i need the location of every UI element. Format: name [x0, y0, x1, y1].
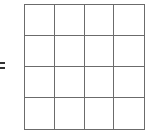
grid-cell [114, 67, 144, 98]
grid-cell [114, 5, 144, 36]
grid-cell [25, 5, 55, 36]
grid-cell [85, 98, 115, 129]
grid-cell [25, 67, 55, 98]
grid-cell [25, 98, 55, 129]
grid-cell [55, 67, 85, 98]
grid-cell [85, 5, 115, 36]
grid-cell [114, 98, 144, 129]
grid-cell [55, 5, 85, 36]
grid-cell [25, 36, 55, 67]
grid-cell [85, 67, 115, 98]
grid-cell [85, 36, 115, 67]
equals-sign [0, 62, 5, 69]
grid-cell [114, 36, 144, 67]
grid-cell [55, 98, 85, 129]
grid-4x4 [24, 4, 145, 130]
grid-cell [55, 36, 85, 67]
